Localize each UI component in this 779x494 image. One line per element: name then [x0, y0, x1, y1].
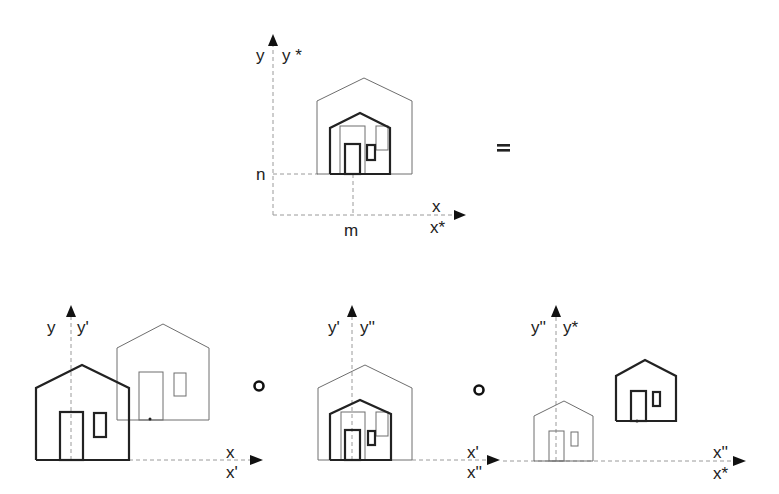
- label-x: x: [226, 443, 235, 462]
- label-y-prime: y': [328, 318, 340, 337]
- label-y-double-prime: y'': [531, 318, 546, 337]
- label-y-double-prime: y'': [360, 318, 375, 337]
- bottom-middle-panel: y' y'' x' x'': [318, 305, 500, 482]
- label-n: n: [256, 165, 265, 184]
- house-original: [36, 365, 129, 460]
- equals-sign: [497, 144, 510, 152]
- label-x: x: [432, 197, 441, 216]
- x-arrow-icon: [250, 455, 263, 465]
- label-y-star: y *: [282, 46, 302, 65]
- label-x-double-prime: x'': [467, 463, 482, 482]
- x-arrow-icon: [454, 210, 466, 220]
- label-y: y: [47, 318, 56, 337]
- y-arrow-icon: [66, 305, 76, 317]
- house-translated: [117, 324, 209, 421]
- label-y-star: y*: [563, 318, 579, 337]
- x-arrow-icon: [733, 456, 746, 466]
- compose-operator-icon: [255, 382, 264, 391]
- house-original: [534, 401, 593, 461]
- label-x-star: x*: [430, 218, 446, 237]
- label-x-prime: x': [226, 463, 238, 482]
- label-x-double-prime: x'': [713, 443, 728, 462]
- label-m: m: [344, 221, 358, 240]
- compose-operator-icon: [475, 386, 484, 395]
- top-panel: y y * n m x x*: [256, 34, 466, 240]
- x-arrow-icon: [487, 455, 500, 465]
- label-y-prime: y': [77, 318, 89, 337]
- house-original: [330, 400, 391, 460]
- label-y: y: [256, 46, 265, 65]
- label-x-prime: x': [467, 443, 479, 462]
- y-arrow-icon: [347, 305, 357, 317]
- house-original: [330, 113, 390, 174]
- y-arrow-icon: [268, 34, 278, 46]
- label-x-star: x*: [713, 464, 729, 483]
- transformation-composition-diagram: y y * n m x x* y y' x x': [0, 0, 779, 494]
- bottom-right-panel: y'' y* x'' x*: [503, 305, 746, 483]
- y-arrow-icon: [551, 305, 561, 317]
- bottom-left-panel: y y' x x': [36, 305, 263, 482]
- house-scaled: [317, 78, 412, 174]
- house-translated: [616, 360, 676, 423]
